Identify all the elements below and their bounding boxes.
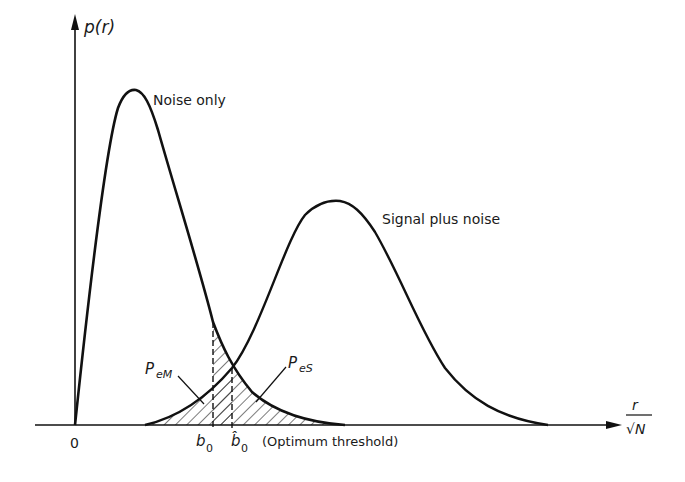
origin-label: 0	[70, 435, 79, 451]
svg-text:0: 0	[241, 442, 248, 455]
svg-text:eS: eS	[299, 362, 313, 375]
y-axis	[71, 14, 79, 425]
svg-text:P: P	[288, 354, 298, 372]
peS-label: P eS	[288, 354, 313, 375]
signal-plus-noise-label: Signal plus noise	[382, 211, 500, 227]
x-axis-label: r √N	[626, 397, 652, 437]
peM-leader-line	[178, 376, 204, 404]
signal-plus-noise-curve	[145, 201, 548, 425]
x-axis-arrow-icon	[606, 421, 622, 429]
svg-text:P: P	[145, 360, 155, 378]
y-axis-label: p(r)	[83, 17, 115, 37]
noise-only-label: Noise only	[153, 92, 226, 108]
y-axis-arrow-icon	[71, 14, 79, 30]
svg-text:√N: √N	[626, 421, 646, 437]
svg-text:b̂: b̂	[231, 431, 241, 450]
svg-text:b: b	[196, 432, 206, 450]
svg-text:eM: eM	[156, 368, 173, 381]
svg-text:r: r	[632, 397, 639, 413]
b0-hat-label: b̂ 0	[231, 431, 248, 455]
b0-label: b 0	[196, 432, 213, 455]
detection-diagram: p(r) Noise only Signal plus noise 0 P eM…	[0, 0, 685, 482]
peS-leader-line	[256, 367, 286, 402]
optimum-threshold-note: (Optimum threshold)	[262, 434, 398, 449]
svg-text:0: 0	[206, 442, 213, 455]
peM-label: P eM	[145, 360, 173, 381]
